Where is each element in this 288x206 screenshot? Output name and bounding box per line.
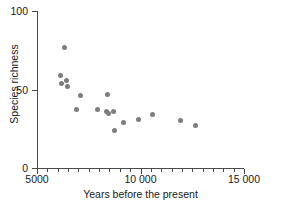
x-axis-title: Years before the present <box>37 188 244 200</box>
data-point <box>78 93 83 98</box>
x-tick-mark <box>47 169 48 172</box>
x-tick-mark <box>68 169 69 172</box>
data-point <box>105 92 110 97</box>
x-tick-mark <box>89 169 90 172</box>
data-point <box>121 120 126 125</box>
x-tick-mark <box>130 169 131 172</box>
x-tick-label: 10 000 <box>111 173 171 185</box>
x-tick-mark <box>203 169 204 172</box>
x-tick-label: 15 000 <box>214 173 274 185</box>
data-point <box>64 78 69 83</box>
x-tick-mark <box>192 169 193 172</box>
x-tick-mark <box>58 169 59 172</box>
y-tick-mark <box>32 11 37 12</box>
data-point <box>106 111 111 116</box>
data-point <box>136 117 141 122</box>
data-point <box>59 81 64 86</box>
x-tick-mark <box>223 169 224 172</box>
scatter-chart: 050100 500010 00015 000 Species richness… <box>0 0 288 206</box>
y-axis-line <box>37 11 38 169</box>
x-tick-mark <box>182 169 183 172</box>
x-tick-mark <box>109 169 110 172</box>
data-point <box>112 128 117 133</box>
x-tick-label: 5000 <box>7 173 67 185</box>
x-tick-mark <box>234 169 235 172</box>
x-tick-mark <box>151 169 152 172</box>
data-point <box>193 123 198 128</box>
data-point <box>65 84 70 89</box>
x-tick-mark <box>213 169 214 172</box>
y-tick-label: 100 <box>0 6 28 16</box>
x-tick-mark <box>78 169 79 172</box>
y-axis-title: Species richness <box>8 24 20 144</box>
x-tick-mark <box>161 169 162 172</box>
x-tick-mark <box>120 169 121 172</box>
x-tick-mark <box>99 169 100 172</box>
y-tick-mark <box>32 90 37 91</box>
x-tick-mark <box>172 169 173 172</box>
y-tick-label: 0 <box>0 163 28 173</box>
